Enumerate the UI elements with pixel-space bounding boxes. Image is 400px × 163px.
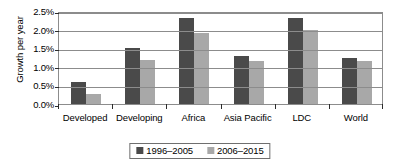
- bar: [71, 82, 86, 104]
- bar: [86, 94, 101, 104]
- x-axis-tick-mark: [329, 104, 330, 109]
- bar-group: [125, 13, 155, 104]
- x-axis-category-label: LDC: [292, 112, 311, 124]
- y-axis-tick-label: 0.0%: [18, 100, 54, 110]
- bar-group: [179, 13, 209, 104]
- y-axis-tick-label: 2.0%: [18, 26, 54, 36]
- bar-group: [71, 13, 101, 104]
- x-axis-category-label: World: [344, 112, 368, 124]
- legend-label: 1996–2005: [146, 145, 193, 156]
- y-axis-tick-mark: [55, 13, 59, 14]
- x-axis-tick-mark: [382, 104, 383, 109]
- x-axis-category-label: Developed: [63, 112, 108, 124]
- legend-item: 1996–2005: [136, 145, 193, 156]
- x-axis-tick-marks: [58, 104, 383, 110]
- x-axis-category-label: Asia Pacific: [224, 112, 272, 124]
- y-axis-tick-label: 2.5%: [18, 7, 54, 17]
- bar-group: [288, 13, 318, 104]
- x-axis-category-label: Africa: [182, 112, 206, 124]
- y-axis-tick-label: 0.5%: [18, 81, 54, 91]
- bar-layer: [59, 13, 382, 104]
- plot-area: [58, 12, 383, 105]
- x-axis-tick-mark: [58, 104, 59, 109]
- x-axis-tick-mark: [275, 104, 276, 109]
- gridline: [59, 87, 382, 88]
- gridline: [59, 31, 382, 32]
- chart-legend: 1996–20052006–2015: [129, 143, 270, 159]
- y-axis-tick-mark: [55, 50, 59, 51]
- gridline: [59, 68, 382, 69]
- bar: [342, 58, 357, 105]
- y-axis-tick-mark: [55, 68, 59, 69]
- gridline: [59, 13, 382, 14]
- y-axis-tick-mark: [55, 87, 59, 88]
- y-axis-tick-label: 1.0%: [18, 63, 54, 73]
- x-axis-category-labels: DevelopedDevelopingAfricaAsia PacificLDC…: [58, 112, 383, 128]
- x-axis-category-label: Developing: [116, 112, 163, 124]
- bar: [125, 48, 140, 104]
- bar-group: [342, 13, 372, 104]
- growth-per-year-bar-chart: Growth per year 0.0%0.5%1.0%1.5%2.0%2.5%…: [0, 0, 400, 163]
- bar: [140, 60, 155, 104]
- bar-group: [234, 13, 264, 104]
- gridline: [59, 50, 382, 51]
- y-axis-tick-mark: [55, 31, 59, 32]
- legend-item: 2006–2015: [207, 145, 264, 156]
- legend-label: 2006–2015: [217, 145, 264, 156]
- y-axis-tick-labels: 0.0%0.5%1.0%1.5%2.0%2.5%: [18, 0, 54, 163]
- x-axis-tick-mark: [221, 104, 222, 109]
- y-axis-tick-label: 1.5%: [18, 44, 54, 54]
- legend-swatch-icon: [207, 147, 214, 154]
- legend-swatch-icon: [136, 147, 143, 154]
- x-axis-tick-mark: [166, 104, 167, 109]
- bar: [303, 30, 318, 104]
- bar: [234, 56, 249, 104]
- x-axis-tick-mark: [112, 104, 113, 109]
